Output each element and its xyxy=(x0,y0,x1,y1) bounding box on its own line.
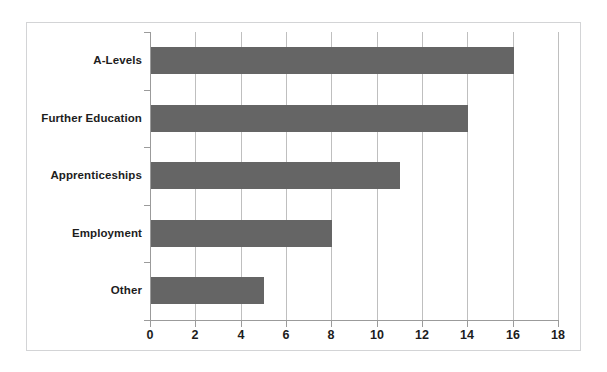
category-tick-4 xyxy=(144,262,150,263)
gridline-12 xyxy=(422,32,423,320)
value-tick-6 xyxy=(286,321,287,327)
value-tick-14 xyxy=(467,321,468,327)
value-tick-0 xyxy=(150,321,151,327)
value-axis-label-18: 18 xyxy=(551,328,565,342)
value-axis-label-14: 14 xyxy=(460,328,474,342)
category-tick-1 xyxy=(144,90,150,91)
bar-a-levels[interactable] xyxy=(151,47,514,74)
value-tick-18 xyxy=(558,321,559,327)
category-axis-labels: A-Levels Further Education Apprenticeshi… xyxy=(0,32,142,320)
value-axis-label-2: 2 xyxy=(192,328,199,342)
value-axis-label-10: 10 xyxy=(370,328,384,342)
gridline-14 xyxy=(467,32,468,320)
category-label-employment: Employment xyxy=(2,227,142,239)
category-label-further-education: Further Education xyxy=(2,112,142,124)
value-axis-label-0: 0 xyxy=(147,328,154,342)
bar-apprenticeships[interactable] xyxy=(151,162,400,189)
bar-employment[interactable] xyxy=(151,220,332,247)
category-axis-line xyxy=(150,320,559,321)
category-label-a-levels: A-Levels xyxy=(2,54,142,66)
value-tick-2 xyxy=(195,321,196,327)
value-axis-label-16: 16 xyxy=(506,328,520,342)
value-axis-label-8: 8 xyxy=(328,328,335,342)
gridline-18 xyxy=(558,32,559,320)
category-label-other: Other xyxy=(2,284,142,296)
value-tick-4 xyxy=(241,321,242,327)
value-tick-12 xyxy=(422,321,423,327)
category-tick-0 xyxy=(144,32,150,33)
value-axis-label-4: 4 xyxy=(238,328,245,342)
bar-other[interactable] xyxy=(151,277,264,304)
value-axis-label-12: 12 xyxy=(415,328,429,342)
value-tick-10 xyxy=(377,321,378,327)
category-tick-2 xyxy=(144,147,150,148)
bar-chart-figure: A-Levels Further Education Apprenticeshi… xyxy=(0,0,607,372)
gridline-16 xyxy=(513,32,514,320)
value-axis-line xyxy=(150,32,151,321)
bar-further-education[interactable] xyxy=(151,105,468,132)
value-axis-label-6: 6 xyxy=(283,328,290,342)
category-label-apprenticeships: Apprenticeships xyxy=(2,169,142,181)
plot-area xyxy=(150,32,558,320)
category-tick-3 xyxy=(144,205,150,206)
value-tick-8 xyxy=(331,321,332,327)
value-tick-16 xyxy=(513,321,514,327)
